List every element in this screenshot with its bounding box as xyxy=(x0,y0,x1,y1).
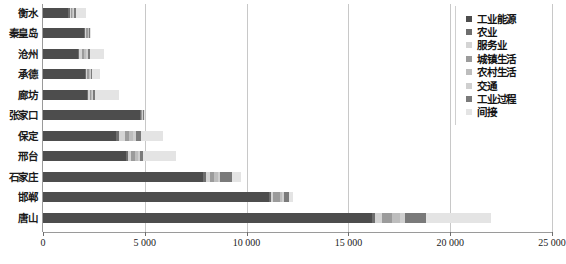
bar-stack[interactable] xyxy=(43,192,293,202)
bar-segment[interactable] xyxy=(43,131,116,141)
bar-segment[interactable] xyxy=(141,131,163,141)
legend-item[interactable]: 交通 xyxy=(466,79,559,92)
legend-swatch-icon xyxy=(466,16,472,22)
legend-item[interactable]: 工业能源 xyxy=(466,12,559,25)
bar-stack[interactable] xyxy=(43,172,241,182)
bar-segment[interactable] xyxy=(426,213,491,223)
bar-segment[interactable] xyxy=(382,213,393,223)
legend-swatch-icon xyxy=(466,42,472,48)
legend-item-label: 城镇生活 xyxy=(477,53,516,65)
bar-segment[interactable] xyxy=(90,49,104,59)
bar-segment[interactable] xyxy=(43,110,140,120)
bar-stack[interactable] xyxy=(43,8,86,18)
y-axis-label: 廊坊 xyxy=(0,90,38,101)
legend-item-label: 交通 xyxy=(477,80,497,92)
bar-stack[interactable] xyxy=(43,110,144,120)
y-axis-label: 唐山 xyxy=(0,213,38,224)
y-axis-label: 邯郸 xyxy=(0,192,38,203)
bar-stack[interactable] xyxy=(43,213,491,223)
legend-swatch-icon xyxy=(466,96,472,102)
x-tick-label: 15 000 xyxy=(335,237,363,248)
legend-item[interactable]: 服务业 xyxy=(466,39,559,52)
legend-item-label: 农村生活 xyxy=(477,66,516,78)
x-tick-label: 20 000 xyxy=(436,237,464,248)
y-axis-label: 承德 xyxy=(0,69,38,80)
chart-legend: 工业能源农业服务业城镇生活农村生活交通工业过程间接 xyxy=(455,6,559,125)
x-tick-label: 0 xyxy=(41,237,46,248)
gridline xyxy=(450,4,451,232)
legend-swatch-icon xyxy=(466,29,472,35)
x-tick-mark xyxy=(348,232,349,236)
x-tick-mark xyxy=(247,232,248,236)
x-tick-label: 10 000 xyxy=(233,237,261,248)
bar-segment[interactable] xyxy=(43,8,68,18)
bar-segment[interactable] xyxy=(392,213,400,223)
bar-stack[interactable] xyxy=(43,49,104,59)
bar-segment[interactable] xyxy=(43,69,85,79)
bar-segment[interactable] xyxy=(43,49,78,59)
bar-stack[interactable] xyxy=(43,69,100,79)
bar-segment[interactable] xyxy=(43,172,203,182)
x-axis-ticks: 05 00010 00015 00020 00025 000 xyxy=(0,232,559,252)
x-tick-mark xyxy=(450,232,451,236)
bar-segment[interactable] xyxy=(273,192,280,202)
legend-item[interactable]: 农业 xyxy=(466,25,559,38)
legend-swatch-icon xyxy=(466,56,472,62)
bar-segment[interactable] xyxy=(143,151,175,161)
bar-segment[interactable] xyxy=(289,192,293,202)
bar-stack[interactable] xyxy=(43,131,163,141)
bar-stack[interactable] xyxy=(43,28,91,38)
y-axis-label: 沧州 xyxy=(0,49,38,60)
bar-segment[interactable] xyxy=(43,28,84,38)
legend-item[interactable]: 间接 xyxy=(466,106,559,119)
y-axis-label: 秦皇岛 xyxy=(0,28,38,39)
legend-item-label: 工业能源 xyxy=(477,13,516,25)
legend-item-label: 服务业 xyxy=(477,39,506,51)
bar-stack[interactable] xyxy=(43,151,176,161)
bar-segment[interactable] xyxy=(43,151,126,161)
y-axis-category-labels: 衡水秦皇岛沧州承德廊坊张家口保定邢台石家庄邯郸唐山 xyxy=(0,0,41,232)
y-axis-label: 保定 xyxy=(0,131,38,142)
bar-segment[interactable] xyxy=(232,172,241,182)
legend-swatch-icon xyxy=(466,83,472,89)
legend-swatch-icon xyxy=(466,109,472,115)
y-axis-label: 邢台 xyxy=(0,151,38,162)
legend-item[interactable]: 农村生活 xyxy=(466,66,559,79)
legend-item-label: 间接 xyxy=(477,106,497,118)
bar-stack[interactable] xyxy=(43,90,119,100)
bar-segment[interactable] xyxy=(95,90,119,100)
x-tick-mark xyxy=(145,232,146,236)
y-axis-label: 石家庄 xyxy=(0,172,38,183)
legend-swatch-icon xyxy=(466,69,472,75)
legend-item-label: 农业 xyxy=(477,26,497,38)
bar-segment[interactable] xyxy=(43,213,372,223)
bar-segment[interactable] xyxy=(90,28,91,38)
legend-item[interactable]: 工业过程 xyxy=(466,92,559,105)
bar-segment[interactable] xyxy=(76,8,86,18)
y-axis-label: 衡水 xyxy=(0,8,38,19)
bar-segment[interactable] xyxy=(220,172,231,182)
gridline xyxy=(348,4,349,232)
bar-segment[interactable] xyxy=(405,213,426,223)
legend-item-label: 工业过程 xyxy=(477,93,516,105)
legend-item[interactable]: 城镇生活 xyxy=(466,52,559,65)
x-tick-mark xyxy=(43,232,44,236)
bar-segment[interactable] xyxy=(43,192,269,202)
x-tick-label: 5 000 xyxy=(134,237,157,248)
bar-segment[interactable] xyxy=(92,69,100,79)
x-tick-label: 25 000 xyxy=(538,237,566,248)
x-tick-mark xyxy=(552,232,553,236)
y-axis-label: 张家口 xyxy=(0,110,38,121)
bar-segment[interactable] xyxy=(43,90,87,100)
